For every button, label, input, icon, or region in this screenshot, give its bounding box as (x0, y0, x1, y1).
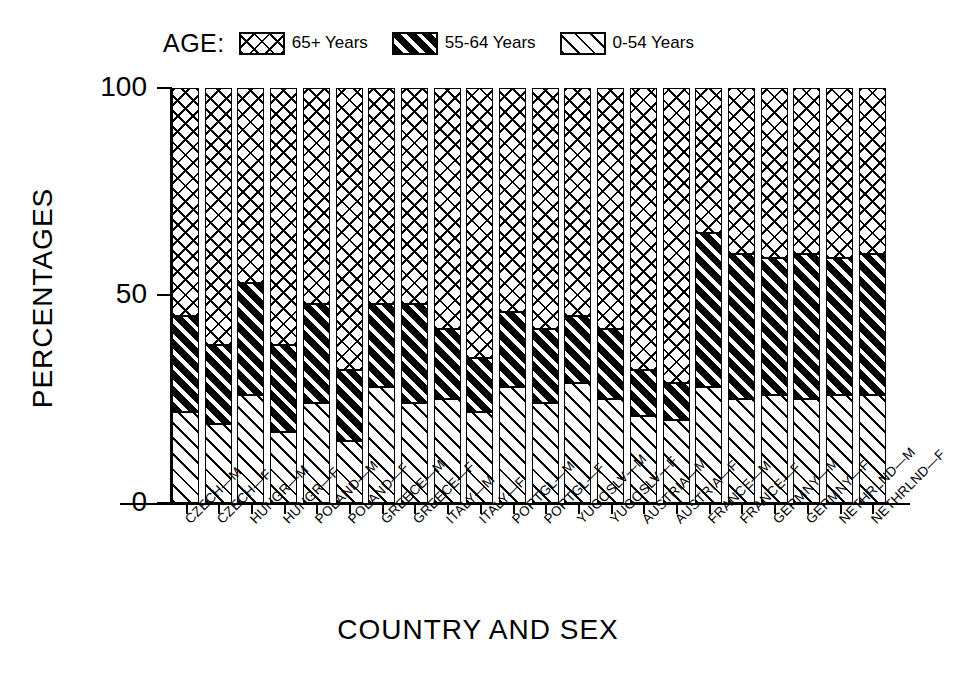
segment-65-years (728, 88, 755, 254)
segment-65-years (401, 88, 428, 304)
crosshatch-swatch-icon (239, 32, 285, 55)
legend-label-0-54: 0-54 Years (613, 33, 694, 53)
segment-55-64-years (368, 304, 395, 387)
bar-portgl-f[interactable] (532, 88, 559, 503)
y-tick-50 (157, 294, 171, 296)
legend-title: AGE: (163, 29, 225, 58)
bar-hungr-f[interactable] (270, 88, 297, 503)
bar-italy-f[interactable] (466, 88, 493, 503)
segment-65-years (499, 88, 526, 312)
segment-55-64-years (859, 254, 886, 395)
segment-65-years (564, 88, 591, 316)
segment-55-64-years (237, 283, 264, 395)
segment-55-64-years (695, 233, 722, 387)
segment-55-64-years (826, 258, 853, 395)
segment-65-years (368, 88, 395, 304)
bar-czech-m[interactable] (172, 88, 199, 503)
segment-55-64-years (597, 329, 624, 400)
legend-entry-65plus: 65+ Years (239, 32, 368, 55)
legend-label-65plus: 65+ Years (292, 33, 368, 53)
segment-55-64-years (761, 258, 788, 395)
segment-55-64-years (434, 329, 461, 400)
segment-65-years (793, 88, 820, 254)
bar-poland-m[interactable] (303, 88, 330, 503)
segment-55-64-years (663, 383, 690, 420)
segment-55-64-years (532, 329, 559, 404)
segment-65-years (466, 88, 493, 358)
segment-65-years (205, 88, 232, 345)
segment-65-years (172, 88, 199, 316)
segment-65-years (695, 88, 722, 233)
segment-55-64-years (205, 345, 232, 424)
bar-austria-f[interactable] (663, 88, 690, 503)
bar-austria-m[interactable] (630, 88, 657, 503)
thin-hatch-swatch-icon (560, 32, 606, 55)
y-tick-label-0: 0 (57, 486, 147, 518)
bar-italy-m[interactable] (434, 88, 461, 503)
segment-65-years (270, 88, 297, 345)
segment-55-64-years (336, 370, 363, 441)
segment-65-years (663, 88, 690, 383)
segment-55-64-years (499, 312, 526, 387)
segment-55-64-years (564, 316, 591, 382)
bar-greece-m[interactable] (368, 88, 395, 503)
chart-legend: AGE: 65+ Years 55-64 Years 0-54 Years (163, 26, 718, 60)
segment-65-years (237, 88, 264, 283)
plot-area (172, 88, 892, 503)
bar-france-f[interactable] (728, 88, 755, 503)
x-axis-title: COUNTRY AND SEX (0, 614, 956, 646)
segment-55-64-years (793, 254, 820, 399)
y-tick-100 (157, 87, 171, 89)
bar-nethrlnd-m[interactable] (826, 88, 853, 503)
bold-hatch-swatch-icon (392, 32, 438, 55)
segment-55-64-years (303, 304, 330, 404)
chart-canvas: AGE: 65+ Years 55-64 Years 0-54 Years 10… (0, 0, 956, 675)
bar-france-m[interactable] (695, 88, 722, 503)
bar-hungr-m[interactable] (237, 88, 264, 503)
segment-65-years (532, 88, 559, 329)
bar-germny-m[interactable] (761, 88, 788, 503)
segment-65-years (336, 88, 363, 370)
segment-65-years (826, 88, 853, 258)
segment-55-64-years (401, 304, 428, 404)
bar-nethrlnd-f[interactable] (859, 88, 886, 503)
segment-65-years (434, 88, 461, 329)
segment-65-years (597, 88, 624, 329)
y-tick-0 (157, 502, 171, 504)
y-tick-label-50: 50 (57, 278, 147, 310)
segment-55-64-years (172, 316, 199, 411)
segment-55-64-years (466, 358, 493, 412)
legend-entry-55-64: 55-64 Years (392, 32, 536, 55)
bar-czech-f[interactable] (205, 88, 232, 503)
segment-65-years (761, 88, 788, 258)
segment-65-years (630, 88, 657, 370)
segment-0-54-years (172, 412, 199, 503)
segment-65-years (303, 88, 330, 304)
segment-65-years (859, 88, 886, 254)
y-axis-title: PERCENTAGES (27, 133, 59, 463)
segment-55-64-years (630, 370, 657, 416)
legend-entry-0-54: 0-54 Years (560, 32, 694, 55)
segment-55-64-years (728, 254, 755, 399)
y-tick-label-100: 100 (57, 71, 147, 103)
legend-label-55-64: 55-64 Years (445, 33, 536, 53)
segment-55-64-years (270, 345, 297, 432)
bar-portgl-m[interactable] (499, 88, 526, 503)
bar-yugoslv-f[interactable] (597, 88, 624, 503)
bar-germny-f[interactable] (793, 88, 820, 503)
bar-poland-f[interactable] (336, 88, 363, 503)
bar-greece-f[interactable] (401, 88, 428, 503)
bar-yugoslv-m[interactable] (564, 88, 591, 503)
